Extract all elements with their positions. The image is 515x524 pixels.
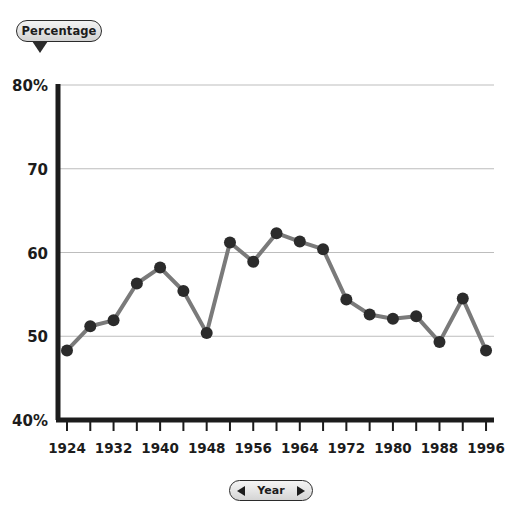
- triangle-left-icon[interactable]: [237, 486, 245, 496]
- data-point-1964[interactable]: [294, 236, 306, 248]
- line-chart: 40%50607080%1924193219401948195619641972…: [0, 0, 515, 524]
- x-tick-label-1932: 1932: [95, 440, 133, 456]
- x-tick-label-1924: 1924: [48, 440, 86, 456]
- y-tick-label-80: 80%: [12, 77, 48, 95]
- chart-svg: 40%50607080%1924193219401948195619641972…: [0, 0, 515, 524]
- data-point-1996[interactable]: [480, 344, 492, 356]
- data-point-1944[interactable]: [177, 285, 189, 297]
- data-point-1976[interactable]: [364, 308, 376, 320]
- data-point-1980[interactable]: [387, 313, 399, 325]
- data-point-1936[interactable]: [131, 277, 143, 289]
- y-tick-label-70: 70: [27, 161, 48, 179]
- data-point-1968[interactable]: [317, 243, 329, 255]
- x-tick-label-1964: 1964: [281, 440, 319, 456]
- data-point-1972[interactable]: [340, 293, 352, 305]
- data-point-1940[interactable]: [154, 262, 166, 274]
- data-point-1956[interactable]: [247, 256, 259, 268]
- data-point-1992[interactable]: [457, 293, 469, 305]
- data-point-1988[interactable]: [433, 336, 445, 348]
- x-tick-label-1956: 1956: [234, 440, 272, 456]
- data-line-percentage: [67, 233, 486, 350]
- data-point-1948[interactable]: [201, 327, 213, 339]
- data-point-1932[interactable]: [108, 314, 120, 326]
- x-tick-label-1948: 1948: [188, 440, 226, 456]
- data-point-1984[interactable]: [410, 310, 422, 322]
- x-tick-label-1972: 1972: [328, 440, 366, 456]
- chart-page: Percentage 40%50607080%19241932194019481…: [0, 0, 515, 524]
- y-tick-label-50: 50: [27, 328, 48, 346]
- year-axis-stepper[interactable]: Year: [229, 480, 313, 501]
- data-point-1952[interactable]: [224, 236, 236, 248]
- x-tick-label-1980: 1980: [374, 440, 412, 456]
- year-axis-label: Year: [257, 484, 284, 497]
- y-tick-label-60: 60: [27, 245, 48, 263]
- triangle-right-icon[interactable]: [297, 486, 305, 496]
- y-tick-label-40: 40%: [12, 412, 48, 430]
- data-point-1924[interactable]: [61, 344, 73, 356]
- x-tick-label-1940: 1940: [141, 440, 179, 456]
- x-tick-label-1988: 1988: [421, 440, 459, 456]
- x-tick-label-1996: 1996: [467, 440, 505, 456]
- data-point-1960[interactable]: [271, 227, 283, 239]
- data-point-1928[interactable]: [84, 320, 96, 332]
